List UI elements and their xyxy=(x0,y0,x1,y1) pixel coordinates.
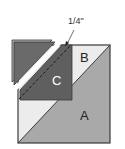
seam-allowance-label: 1/4" xyxy=(68,16,84,26)
label-b: B xyxy=(80,50,89,65)
quilt-diagram xyxy=(0,0,125,149)
label-a: A xyxy=(80,108,89,123)
label-c: C xyxy=(52,73,61,88)
seam-pointer xyxy=(67,30,74,44)
